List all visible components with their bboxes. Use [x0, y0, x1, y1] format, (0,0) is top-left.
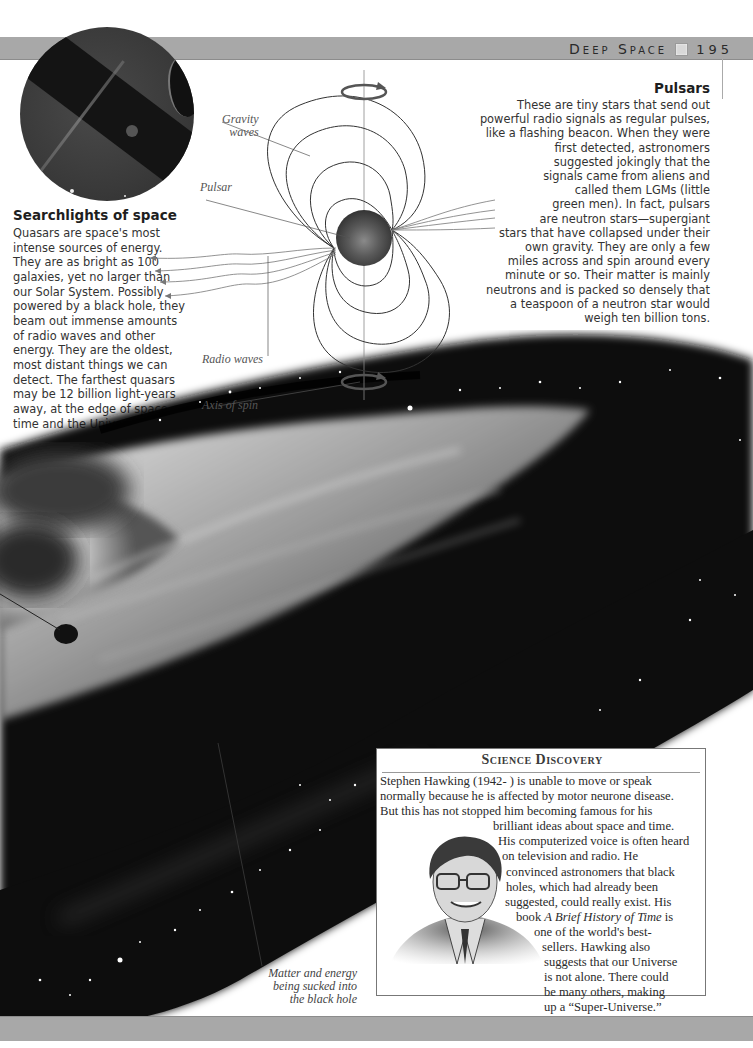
- label-axis-of-spin: Axis of spin: [202, 399, 258, 412]
- text-line: sellers. Hawking also: [380, 940, 704, 955]
- text-line: called them LGMs (little: [480, 183, 710, 197]
- quasar-core: [126, 125, 138, 137]
- text-line: convinced astronomers that black: [380, 865, 704, 880]
- text-line: normally because he is affected by motor…: [380, 789, 704, 804]
- pulsars-body: These are tiny stars that send out power…: [480, 98, 710, 325]
- text-line: weigh ten billion tons.: [480, 311, 710, 325]
- text-line: neutrons and is packed so densely that: [480, 283, 710, 297]
- text-fragment: book: [516, 910, 544, 924]
- text-line: suggests that our Universe: [380, 955, 704, 970]
- text-line: suggested jokingly that the: [480, 155, 710, 169]
- divider: [382, 772, 700, 773]
- black-hole-caption: Matter and energy being sucked into the …: [268, 967, 357, 1006]
- label-radio-waves: Radio waves: [202, 353, 263, 366]
- text-line: These are tiny stars that send out: [480, 98, 710, 112]
- text-line: But this has not stopped him becoming fa…: [380, 804, 704, 819]
- text-line: the black hole: [268, 993, 357, 1006]
- column-rule: [722, 59, 723, 99]
- text-line: Stephen Hawking (1942- ) is unable to mo…: [380, 774, 704, 789]
- square-marker-icon: [675, 43, 688, 56]
- science-discovery-box: Science Discovery Stephen Hawking (1942-…: [376, 748, 706, 996]
- section-title: Deep Space: [569, 41, 667, 57]
- text-line: like a flashing beacon. When they were: [480, 126, 710, 140]
- star-dot: [70, 189, 74, 193]
- text-line: up a “Super-Universe.”: [380, 1000, 704, 1015]
- text-line: green men). In fact, pulsars: [480, 197, 710, 211]
- science-discovery-heading: Science Discovery: [377, 752, 707, 768]
- text-line: suggested, could really exist. His: [380, 895, 704, 910]
- text-line: brilliant ideas about space and time.: [380, 819, 704, 834]
- text-line: on television and radio. He: [380, 849, 704, 864]
- label-gravity-waves: Gravity waves: [222, 113, 259, 139]
- text-line: minute or so. Their matter is mainly: [480, 268, 710, 282]
- text-line: His computerized voice is often heard: [380, 834, 704, 849]
- label-text: waves: [222, 126, 259, 139]
- text-line: a teaspoon of a neutron star would: [480, 297, 710, 311]
- pulsars-title: Pulsars: [654, 80, 710, 96]
- text-line: one of the world's best-: [380, 925, 704, 940]
- text-line: stars that have collapsed under their: [480, 226, 710, 240]
- text-line: own gravity. They are only a few: [480, 240, 710, 254]
- text-line: signals came from aliens and: [480, 169, 710, 183]
- text-line: first detected, astronomers: [480, 141, 710, 155]
- text-fragment: is: [662, 910, 674, 924]
- text-line: be many others, making: [380, 985, 704, 1000]
- text-line: powerful radio signals as regular pulses…: [480, 112, 710, 126]
- footer-bar: [0, 1016, 753, 1041]
- star-dot: [124, 195, 126, 197]
- running-head: Deep Space 195: [569, 38, 733, 60]
- book-title: A Brief History of Time: [544, 910, 661, 924]
- text-line: miles across and spin around every: [480, 254, 710, 268]
- text-line: are neutron stars—supergiant: [480, 212, 710, 226]
- label-pulsar: Pulsar: [200, 181, 232, 194]
- science-discovery-body: Stephen Hawking (1942- ) is unable to mo…: [380, 774, 704, 1016]
- text-line: holes, which had already been: [380, 880, 704, 895]
- pulsar-diagram: [150, 70, 495, 430]
- page-number: 195: [696, 42, 733, 57]
- text-line: is not alone. There could: [380, 970, 704, 985]
